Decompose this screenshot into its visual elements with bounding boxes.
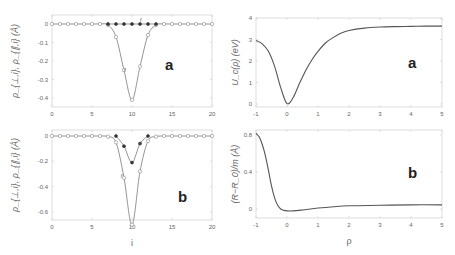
filled-circle-marker	[131, 23, 134, 26]
open-circle-marker	[186, 22, 189, 25]
x-tick-label: 4	[409, 111, 413, 117]
open-circle-marker	[138, 170, 141, 173]
x-tick-label: 15	[169, 224, 176, 230]
open-circle-marker	[178, 134, 181, 137]
y-tick-label: -0.6	[38, 209, 49, 215]
y-tick-label: 0	[45, 133, 49, 139]
filled-circle-marker	[115, 135, 118, 138]
open-circle-marker	[98, 134, 101, 137]
x-tick-label: 3	[378, 111, 382, 117]
y-axis-label: ρ_{⊥,i}, ρ_{∥,i} (Å)	[10, 24, 20, 99]
open-circle-marker	[130, 98, 133, 101]
y-tick-label: -0.2	[38, 58, 49, 64]
x-tick-label: -1	[253, 111, 259, 117]
filled-circle-marker	[123, 23, 126, 26]
y-axis-label: U_c(ρ) (eV)	[230, 39, 240, 86]
y-tick-label: -0.3	[38, 77, 49, 83]
y-axis-label: ρ_{⊥,i}, ρ_{∥,i} (Å)	[10, 138, 20, 213]
y-tick-label: 0	[45, 21, 49, 27]
open-circle-marker	[210, 22, 213, 25]
y-tick-label: 0	[249, 206, 253, 212]
x-tick-label: 1	[316, 222, 320, 228]
y-tick-label: 3	[249, 37, 253, 43]
open-circle-marker	[90, 134, 93, 137]
open-circle-marker	[154, 135, 157, 138]
x-tick-label: 20	[209, 111, 216, 117]
open-circle-marker	[194, 134, 197, 137]
annotation-label: e	[138, 140, 141, 146]
series-line	[52, 24, 212, 100]
open-circle-marker	[114, 141, 117, 144]
open-circle-marker	[58, 22, 61, 25]
x-tick-label: 4	[409, 222, 413, 228]
annotation-label: f	[140, 17, 142, 23]
open-circle-marker	[202, 22, 205, 25]
open-circle-marker	[74, 134, 77, 137]
filled-circle-marker	[147, 135, 150, 138]
panel-label: a	[408, 54, 417, 71]
x-tick-label: 2	[347, 222, 351, 228]
x-tick-label: 5	[90, 111, 94, 117]
y-tick-label: 1	[249, 80, 253, 86]
y-tick-label: 0.4	[244, 169, 253, 175]
open-circle-marker	[130, 223, 133, 226]
x-tick-label: 0	[285, 111, 289, 117]
open-circle-marker	[50, 134, 53, 137]
y-tick-label: 0.8	[244, 132, 253, 138]
open-circle-marker	[194, 22, 197, 25]
figure: 051015200-0.1-0.2-0.3-0.4ffaρ_{⊥,i}, ρ_{…	[0, 0, 455, 255]
panel-label: b	[408, 164, 417, 181]
open-circle-marker	[66, 134, 69, 137]
x-tick-label: 5	[440, 111, 444, 117]
series-line	[116, 136, 148, 163]
open-circle-marker	[202, 134, 205, 137]
plot-frame	[52, 15, 212, 107]
y-tick-label: -0.1	[38, 40, 49, 46]
open-circle-marker	[122, 176, 125, 179]
x-tick-label: 0	[50, 224, 54, 230]
filled-circle-marker	[155, 23, 158, 26]
plot-frame	[52, 130, 212, 220]
open-circle-marker	[170, 134, 173, 137]
open-circle-marker	[74, 22, 77, 25]
x-tick-label: 5	[90, 224, 94, 230]
open-circle-marker	[210, 134, 213, 137]
filled-circle-marker	[131, 161, 134, 164]
open-circle-marker	[162, 22, 165, 25]
open-circle-marker	[162, 134, 165, 137]
chart-panel-top-left: 051015200-0.1-0.2-0.3-0.4ffaρ_{⊥,i}, ρ_{…	[10, 15, 216, 117]
filled-circle-marker	[115, 23, 118, 26]
x-tick-label: 1	[316, 111, 320, 117]
open-circle-marker	[146, 139, 149, 142]
panel-label: a	[165, 56, 174, 73]
open-circle-marker	[138, 65, 141, 68]
y-tick-label: -0.4	[38, 184, 49, 190]
filled-circle-marker	[123, 145, 126, 148]
open-circle-marker	[114, 35, 117, 38]
y-axis-label: (R−R_0)/m (Å)	[230, 145, 240, 204]
filled-circle-marker	[107, 23, 110, 26]
y-tick-label: 0	[249, 101, 253, 107]
x-tick-label: 0	[50, 111, 54, 117]
y-tick-label: -0.4	[38, 95, 49, 101]
open-circle-marker	[178, 22, 181, 25]
panel-label: b	[178, 188, 187, 205]
x-axis-label: ρ	[346, 236, 351, 246]
x-tick-label: 0	[285, 222, 289, 228]
chart-panel-bottom-right: -101234500.40.8b(R−R_0)/m (Å)ρ	[230, 130, 444, 246]
x-tick-label: -1	[253, 222, 259, 228]
open-circle-marker	[50, 22, 53, 25]
x-tick-label: 2	[347, 111, 351, 117]
series-line	[52, 136, 212, 225]
x-tick-label: 3	[378, 222, 382, 228]
open-circle-marker	[186, 134, 189, 137]
x-tick-label: 10	[129, 111, 136, 117]
open-circle-marker	[58, 134, 61, 137]
y-tick-label: 4	[249, 15, 253, 21]
open-circle-marker	[82, 134, 85, 137]
open-circle-marker	[82, 22, 85, 25]
open-circle-marker	[66, 22, 69, 25]
open-circle-marker	[106, 135, 109, 138]
x-tick-label: 20	[209, 224, 216, 230]
x-tick-label: 5	[440, 222, 444, 228]
